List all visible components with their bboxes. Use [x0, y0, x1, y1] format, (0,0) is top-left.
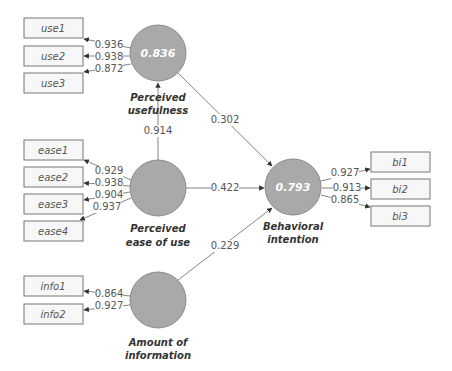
indicators-pu: 0.936 0.938 0.872 use1 use2 use3	[24, 18, 131, 93]
indicator-label: ease4	[38, 226, 68, 237]
indicator-label: ease2	[38, 172, 68, 183]
loading: 0.929	[95, 165, 124, 176]
path-coef: 0.302	[211, 114, 240, 125]
indicator-label: info2	[40, 309, 65, 320]
loading: 0.938	[95, 177, 124, 188]
loading: 0.872	[95, 63, 124, 74]
construct-perceived-usefulness: 0.836 Perceived usefulness	[128, 25, 189, 116]
construct-label-line1: Behavioral	[263, 221, 324, 232]
construct-behavioral-intention: 0.793 Behavioral intention	[263, 159, 324, 245]
path-aoi-to-bi: 0.229	[178, 208, 272, 280]
indicator-label: info1	[40, 281, 65, 292]
loading: 0.904	[95, 189, 124, 200]
indicators-peou: 0.929 0.938 0.904 0.937 ease1 ease2 ease…	[24, 140, 131, 241]
construct-label-line2: intention	[267, 234, 318, 245]
path-coef: 0.914	[144, 125, 173, 136]
indicator-label: ease1	[38, 145, 68, 156]
loading: 0.938	[95, 51, 124, 62]
loading: 0.865	[331, 194, 360, 205]
construct-amount-of-information: Amount of information	[125, 272, 191, 361]
construct-label-line1: Perceived	[130, 223, 186, 234]
r-squared-value: 0.793	[276, 181, 311, 194]
loading: 0.937	[93, 201, 122, 212]
construct-label-line2: usefulness	[128, 105, 189, 116]
r-squared-value: 0.836	[141, 47, 176, 60]
path-peou-to-bi: 0.422	[186, 182, 264, 194]
construct-label-line2: information	[125, 350, 191, 361]
indicator-label: bi1	[392, 157, 408, 168]
loading: 0.913	[333, 182, 362, 193]
indicator-label: use1	[41, 23, 65, 34]
indicator-label: use3	[41, 78, 65, 89]
indicator-label: ease3	[38, 199, 68, 210]
loading: 0.927	[331, 167, 360, 178]
path-coef: 0.229	[211, 240, 240, 251]
construct-perceived-ease-of-use: Perceived ease of use	[126, 160, 191, 248]
construct-label-line1: Perceived	[130, 92, 186, 103]
indicator-label: bi2	[392, 184, 408, 195]
indicators-bi: 0.927 0.913 0.865 bi1 bi2 bi3	[321, 152, 430, 226]
loading: 0.927	[95, 300, 124, 311]
indicator-label: bi3	[392, 211, 408, 222]
indicator-label: use2	[41, 51, 65, 62]
loading: 0.936	[95, 39, 124, 50]
sem-diagram: 0.914 0.302 0.422 0.229 0.936 0.938 0.87…	[0, 0, 452, 371]
path-coef: 0.422	[211, 182, 240, 193]
construct-label-line2: ease of use	[126, 237, 191, 248]
path-pu-to-bi: 0.302	[178, 73, 272, 166]
indicators-aoi: 0.864 0.927 info1 info2	[24, 276, 130, 324]
construct-label-line1: Amount of	[128, 337, 189, 348]
loading: 0.864	[95, 288, 124, 299]
